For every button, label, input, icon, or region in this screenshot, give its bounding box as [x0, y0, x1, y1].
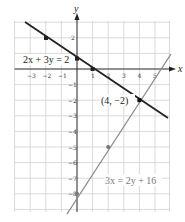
point-0-neg8	[75, 192, 79, 196]
x-tick: 4	[138, 72, 142, 79]
y-tick: −5	[68, 144, 77, 151]
intersection-label: (4, −2)	[101, 95, 128, 107]
y-axis-label: y	[73, 3, 79, 14]
y-tick: −3	[68, 112, 77, 119]
x-tick: −3	[27, 72, 36, 79]
y-tick: −4	[68, 128, 77, 135]
y-tick: −1	[68, 81, 77, 88]
y-tick: 2	[71, 34, 75, 41]
x-axis-arrow-icon	[169, 67, 176, 72]
point-0-two-thirds	[75, 57, 79, 61]
x-tick: 1	[91, 72, 95, 79]
x-axis-label: x	[177, 63, 183, 74]
x-tick: 3	[122, 72, 126, 79]
intersection-point-4-neg2	[137, 98, 141, 102]
y-axis-arrow-icon	[75, 13, 80, 20]
y-tick: −7	[68, 175, 77, 182]
x-tick: −1	[58, 72, 67, 79]
point-2-neg5	[106, 145, 110, 149]
point-1-0	[91, 67, 95, 71]
point-neg2-2	[44, 36, 48, 40]
y-tick: −2	[68, 97, 77, 104]
coordinate-plane: x y −3 −2 −1 1 2 3 4 5 2 −1 −2 −3 −4 −5 …	[0, 0, 185, 222]
equation-label-line2: 3x = 2y + 16	[105, 175, 156, 186]
x-tick-labels: −3 −2 −1 1 2 3 4 5	[27, 72, 157, 79]
y-tick: −6	[68, 159, 77, 166]
x-tick: −2	[43, 72, 52, 79]
equation-label-line1: 2x + 3y = 2	[23, 54, 69, 65]
